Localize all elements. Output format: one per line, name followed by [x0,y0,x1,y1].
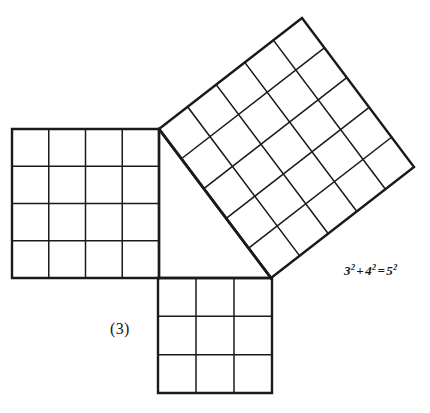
pythagorean-equation-label: 32+42=52 [344,263,398,279]
figure-number-label: (3) [110,320,130,338]
square-outlines-layer [12,18,414,393]
square-on-horizontal-leg-outline [158,278,272,393]
grid-lines-layer [12,40,392,393]
equation-exponent-c: 2 [393,263,397,272]
square-on-hypotenuse-grid-line [188,107,300,256]
equation-base-a: 3 [344,263,351,278]
triangle-hypotenuse [159,129,271,278]
equation-equals-operator: = [377,263,387,278]
square-on-hypotenuse-grid-line [216,85,328,234]
square-on-hypotenuse-grid-line [249,137,392,248]
pythagorean-diagram-svg [0,0,430,413]
square-on-hypotenuse-grid-line [226,107,369,218]
square-on-hypotenuse-grid-line [273,40,385,189]
square-on-hypotenuse-grid-line [204,78,347,189]
equation-plus-operator: + [355,263,365,278]
equation-exponent-b: 2 [372,263,376,272]
pythagorean-figure: (3) 32+42=52 [0,0,430,413]
square-on-hypotenuse-grid-line [245,62,357,211]
triangle-layer [159,129,271,278]
square-on-hypotenuse-grid-line [181,48,324,159]
